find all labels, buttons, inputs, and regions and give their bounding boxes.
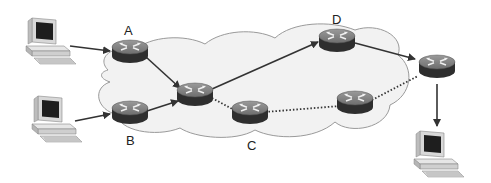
label-c: C [247, 138, 256, 153]
router-d-icon [319, 29, 355, 52]
router-b-icon [112, 101, 148, 124]
label-a: A [124, 23, 133, 38]
edge-pc1-to-A [70, 46, 110, 51]
router-c-icon [232, 101, 268, 124]
label-b: B [126, 133, 135, 148]
computer-1-icon [26, 18, 76, 64]
router-mid-icon [177, 83, 213, 106]
router-e-icon [337, 91, 373, 114]
label-d: D [332, 12, 341, 27]
router-right-icon [419, 55, 455, 78]
network-diagram: A B C D [0, 0, 491, 183]
computer-3-icon [414, 131, 464, 177]
edge-pc2-to-B [75, 114, 110, 121]
computer-2-icon [32, 96, 82, 142]
router-a-icon [112, 40, 148, 63]
